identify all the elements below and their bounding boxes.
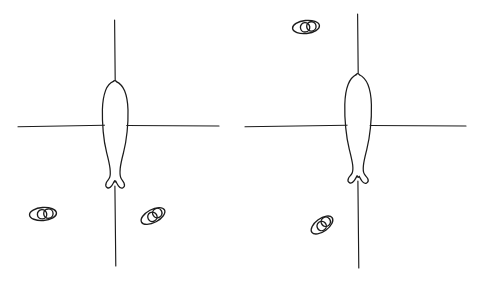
left-vertical-axis-upper	[115, 20, 116, 80]
figure-root	[0, 0, 482, 286]
left-horizontal-axis-right	[127, 126, 219, 127]
right-vertical-axis-upper	[358, 14, 359, 73]
canvas-background	[0, 0, 482, 286]
left-specimen-tail-notch	[115, 181, 116, 182]
right-horizontal-axis-right	[370, 126, 466, 127]
line-drawing-canvas	[0, 0, 482, 286]
